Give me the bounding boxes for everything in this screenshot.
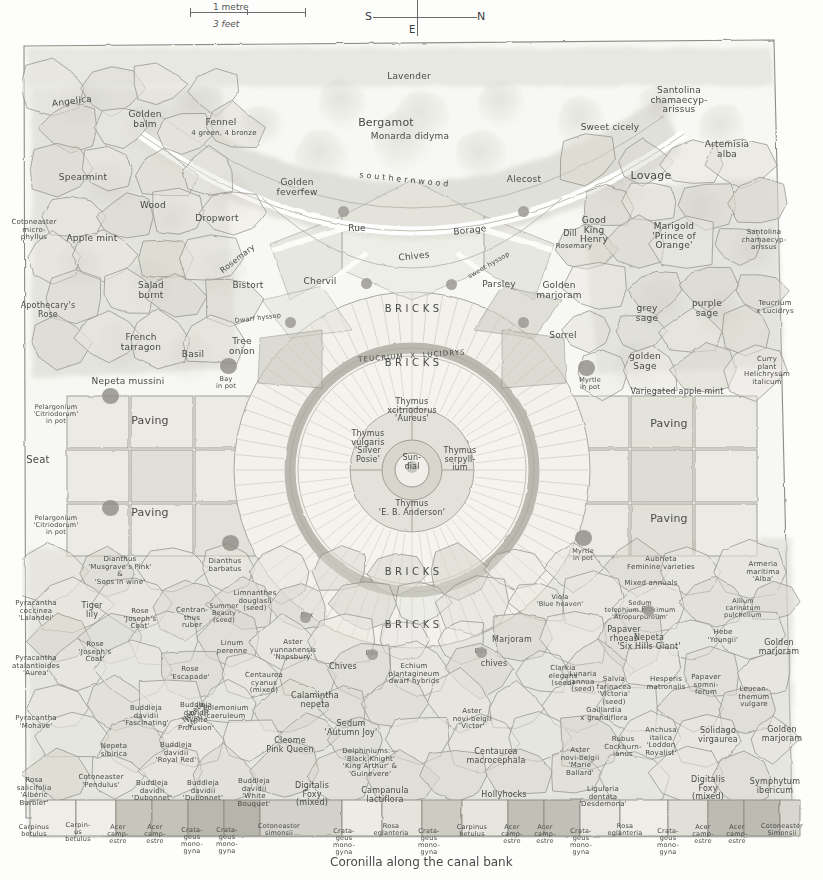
- herb-bed-label: Golden balm: [116, 110, 174, 129]
- herb-bed-label: Dropwort: [182, 214, 252, 224]
- herb-bed-label: Myrtle in pot: [573, 377, 607, 391]
- plant-bed-label: Golden marjoram: [753, 639, 805, 656]
- herb-bed-label: Borage: [440, 223, 501, 239]
- plant-bed-label: Nepeta sibirica: [92, 743, 136, 758]
- plant-bed-label: Hebe 'Youngii': [700, 629, 746, 644]
- herb-bed-label: s o u t h e r n w o o d: [339, 169, 469, 191]
- plant-bed-label: Symphytum ibericum: [746, 778, 804, 795]
- plant-bed-label: Rubus Cockburn- ianus: [600, 736, 646, 759]
- plant-bed-label: Campanula lactiflora: [356, 787, 414, 804]
- herb-bed-label: Teucrium x Lucidrys: [745, 300, 805, 315]
- thyme-bed-west-label: Thymus vulgaris 'Silver Posie': [338, 430, 398, 465]
- plant-bed-label: Summer Beauty (seed): [201, 603, 247, 624]
- herb-bed-label: Apothecary's Rose: [15, 302, 81, 319]
- herb-bed-label: Pelargonium 'Citriodorum' in pot: [23, 515, 89, 536]
- potted-plant-marker: [102, 388, 119, 404]
- plant-bed-label: Viola 'Blue heaven': [536, 594, 584, 608]
- plant-bed-label: Rose 'Joseph's Coat': [71, 641, 119, 664]
- plant-bed-label: Lunaria annua (seed): [562, 671, 604, 694]
- herb-bed-label: Santolina chamaecyp- arissus: [639, 86, 719, 115]
- herb-bed-label: Lovage: [621, 170, 681, 182]
- thyme-bed-north-label: Thymus xcitriodorus 'Aureus': [369, 398, 455, 424]
- herb-bed-label: Rue: [337, 224, 377, 234]
- plant-bed-label: chives: [474, 660, 514, 669]
- herb-bed-label: Marigold 'Prince of Orange': [639, 222, 709, 251]
- plant-bed-label: Marjoram: [483, 636, 541, 645]
- seat-label: Seat: [18, 455, 58, 466]
- plant-bed-label: Sedum 'Autumn Joy': [319, 720, 383, 737]
- plant-bed-label: Digitalis Foxy (mixed): [685, 776, 731, 802]
- potted-plant-marker: [575, 530, 592, 546]
- paving-label-west-upper: Paving: [110, 415, 190, 427]
- herb-bed-label: Basil: [173, 350, 213, 360]
- herb-bed-label: Curry plant Helichrysum italicum: [734, 356, 800, 386]
- plant-bed-label: Buddleja davidii 'White Profusion': [173, 702, 219, 732]
- herb-bed-label: golden Sage: [621, 352, 669, 371]
- plant-bed-label: Cleome Pink Queen: [262, 737, 318, 754]
- box-plant-marker: [518, 317, 529, 328]
- herb-bed-label: Myrtle in pot: [566, 548, 600, 562]
- box-plant-marker: [518, 206, 529, 217]
- herb-bed-label: Pelargonium 'Citriodorum' in pot: [23, 404, 89, 425]
- herb-bed-label: Tree onion: [220, 337, 264, 356]
- herb-bed-label: Variegated apple mint: [617, 388, 737, 397]
- herb-bed-label: Rosemary: [213, 239, 262, 280]
- herb-bed-label: Sweet cicely: [565, 123, 655, 133]
- tree-label: Carpinus betulus: [12, 824, 56, 838]
- herb-bed-label: Santolina chamaecyp- arissus: [728, 229, 800, 252]
- herb-bed-label: Artemisia alba: [692, 140, 762, 159]
- tree-label: Rosa eglanteria: [603, 823, 647, 837]
- potted-plant-marker: [102, 500, 119, 516]
- plant-bed-label: Buddleja davidii 'Dubonnet': [130, 780, 174, 803]
- herb-bed-label: grey sage: [627, 304, 667, 323]
- plant-bed-label: Mixed annuals: [611, 580, 691, 588]
- tree-label: Crata- geus mono- gyna: [322, 828, 366, 856]
- herb-bed-label: Golden marjoram: [528, 281, 590, 300]
- plant-bed-label: Digitalis Foxy (mixed): [291, 782, 333, 808]
- plant-bed-label: Cotoneaster 'Pendulus': [73, 774, 129, 789]
- plant-bed-label: Rose 'Escapade': [164, 666, 216, 681]
- box-plant-marker: [446, 279, 457, 290]
- plant-bed-label: Rose 'Joseph's Coat': [115, 608, 165, 631]
- plant-bed-label: Papaver somni- ferum: [684, 674, 728, 697]
- plan-caption: Coronilla along the canal bank: [330, 855, 513, 869]
- herb-bed-label: Alecost: [494, 175, 554, 185]
- herb-bed-label: Rosemary: [547, 243, 601, 251]
- plant-bed-label: Tiger lily: [72, 602, 112, 619]
- herb-bed-label: Angelica: [37, 93, 108, 111]
- paving-label-east-lower: Paving: [629, 513, 709, 525]
- plant-bed-label: Armeria maritima 'Alba': [737, 561, 789, 584]
- box-plant-marker: [643, 605, 654, 616]
- herb-bed-label: Dwarf hyssop: [225, 311, 291, 326]
- plant-bed-label: Centaurea cyanus (mixed): [238, 672, 290, 695]
- brick-label-bottom: B R I C K S: [352, 620, 472, 631]
- herb-bed-label: Parsley: [473, 280, 525, 290]
- brick-label-lower-mid: B R I C K S: [352, 567, 472, 578]
- plant-bed-label: Aster yunnanensis 'Napsbury': [263, 639, 323, 662]
- herb-bed-label: Fennel: [191, 118, 251, 128]
- herb-bed-label: Lavender: [349, 72, 469, 82]
- tree-label: Acer camp- estre: [715, 824, 759, 845]
- herb-bed-label: Dianthus barbatus: [200, 558, 250, 573]
- tree-label: Crata- geus mono- gyna: [559, 828, 603, 856]
- plant-bed-label: Nepeta 'Six Hills Giant': [605, 634, 693, 651]
- tree-label: Carpinus betulus: [450, 824, 494, 838]
- plan-labels-layer: B R I C K S B R I C K S B R I C K S B R …: [0, 0, 823, 880]
- plant-bed-label: Allium carinatum pulchellum: [715, 598, 771, 619]
- herb-bed-label: 4 green, 4 bronze: [179, 130, 269, 138]
- plant-bed-label: Pyracantha atalantioides 'Aurea': [5, 655, 67, 678]
- plant-bed-label: Buddleja davidii 'Royal Red': [153, 742, 199, 765]
- plant-bed-label: Ligularia dentata 'Desdemona': [573, 786, 633, 809]
- box-plant-marker: [476, 647, 487, 658]
- herb-bed-label: Bay in pot: [210, 376, 242, 390]
- herb-bed-label: Chervil: [294, 277, 346, 287]
- herb-bed-label: Nepeta mussini: [83, 377, 173, 387]
- box-plant-marker: [285, 317, 296, 328]
- plant-bed-label: Pyracantha coccinea 'Lalandei': [5, 600, 67, 623]
- tree-label: Cotoneaster simonsii: [257, 823, 301, 837]
- herb-bed-label: Golden feverfew: [262, 178, 332, 197]
- plant-bed-label: Buddleja davidii 'Dubonnet': [181, 780, 225, 803]
- plant-bed-label: Rosa salicifolia 'Albéric Barbier': [11, 777, 57, 807]
- plant-bed-label: Buddleja davidii 'White Bouquet': [231, 778, 277, 808]
- herb-bed-label: Dianthus 'Musgrave's Pink' & 'Sops in wi…: [65, 556, 175, 586]
